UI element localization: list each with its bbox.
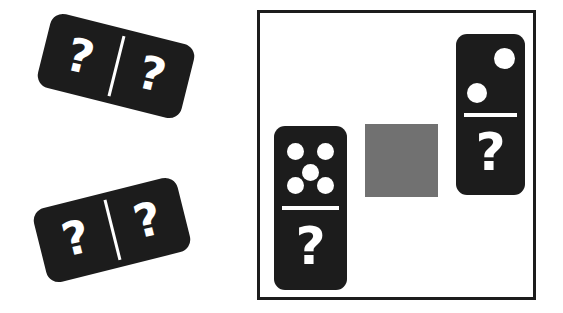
pip-icon <box>494 48 515 69</box>
domino-half-bottom-unknown: ? <box>274 208 347 290</box>
pip-icon <box>287 177 304 194</box>
domino-half-top-pips <box>456 34 525 115</box>
answer-panel: ? ? <box>257 10 536 300</box>
domino-half-top-pips <box>274 126 347 208</box>
question-mark-glyph: ? <box>130 196 166 244</box>
loose-domino-bottom-left[interactable]: ? ? <box>31 175 193 285</box>
pip-icon <box>467 83 487 103</box>
pip-icon <box>287 143 304 160</box>
question-mark-glyph: ? <box>475 129 505 177</box>
panel-domino-left[interactable]: ? <box>274 126 347 290</box>
loose-domino-top-left[interactable]: ? ? <box>35 11 197 121</box>
pip-icon <box>302 164 319 181</box>
panel-domino-right[interactable]: ? <box>456 34 525 195</box>
question-mark-glyph: ? <box>134 50 170 98</box>
domino-half-bottom-unknown: ? <box>456 115 525 196</box>
puzzle-canvas: ? ? ? ? ? <box>0 0 563 313</box>
question-mark-glyph: ? <box>295 223 325 271</box>
gray-square-placeholder[interactable] <box>365 124 438 197</box>
pip-icon <box>317 177 334 194</box>
question-mark-glyph: ? <box>58 214 94 262</box>
question-mark-glyph: ? <box>62 32 98 80</box>
pip-icon <box>317 143 334 160</box>
